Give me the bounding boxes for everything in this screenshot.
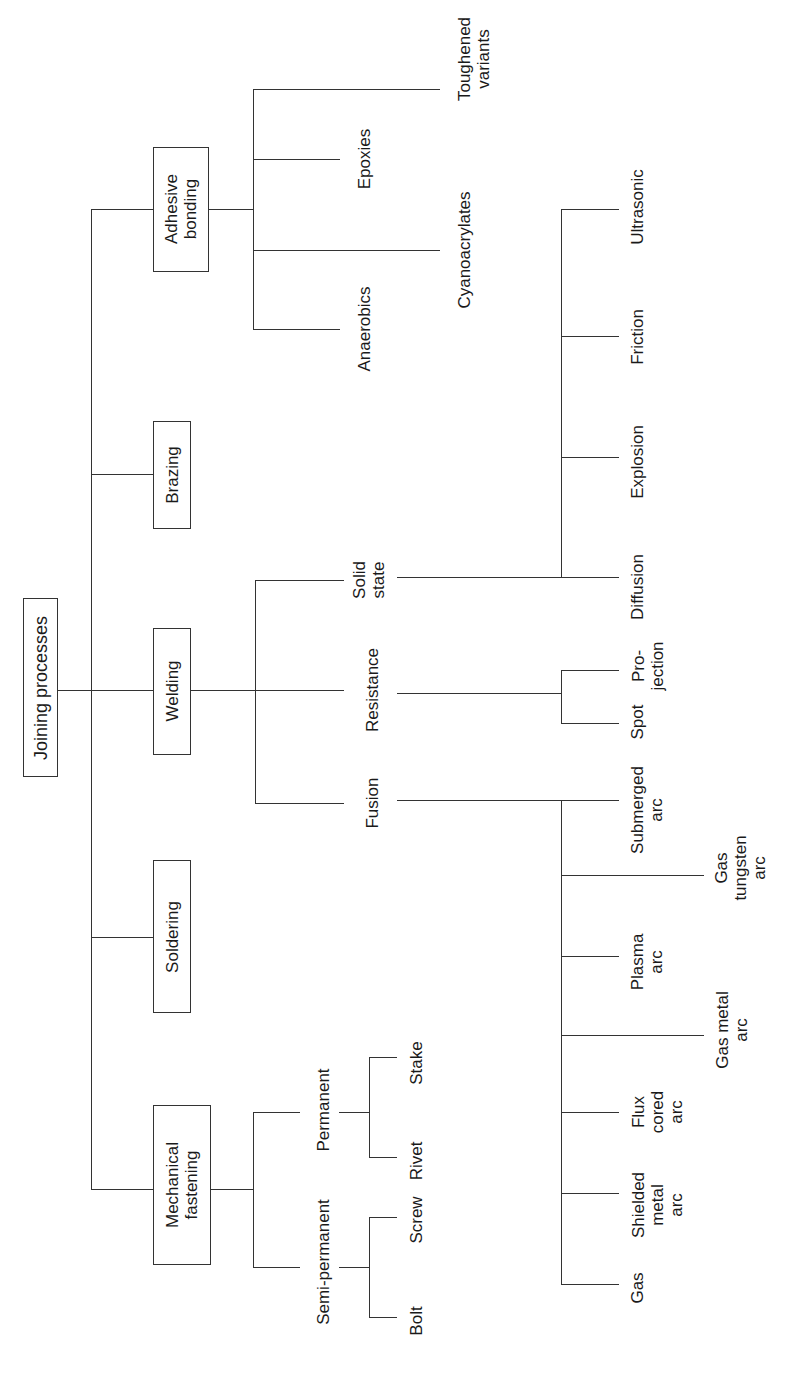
- screw-label: Screw: [407, 1196, 426, 1243]
- branch-projection: [561, 670, 619, 671]
- semi-permanent-bus: [369, 1217, 370, 1317]
- adhesive-bonding-label: Adhesive bonding: [162, 174, 200, 244]
- gas-metal-arc-label: Gas metal arc: [713, 991, 751, 1068]
- soldering-label: Soldering: [163, 901, 182, 973]
- branch-mechanical: [91, 1189, 153, 1190]
- submerged-arc-label: Submerged arc: [628, 766, 666, 854]
- anaerobics-label: Anaerobics: [355, 286, 374, 371]
- level1-bus: [91, 209, 92, 1189]
- branch-explosion: [561, 457, 619, 458]
- branch-spot: [561, 723, 619, 724]
- adhesive-connector: [209, 209, 253, 210]
- branch-gas-tungsten-arc: [561, 875, 704, 876]
- branch-rivet: [369, 1157, 397, 1158]
- resistance-connector: [397, 693, 561, 694]
- mechanical-bus: [253, 1112, 254, 1267]
- branch-welding: [91, 690, 153, 691]
- branch-semi-permanent: [253, 1267, 300, 1268]
- branch-solid-state: [255, 580, 344, 581]
- solid-state-label: Solid state: [350, 561, 388, 599]
- branch-bolt: [369, 1317, 397, 1318]
- shielded-metal-arc-label: Shielded metal arc: [629, 1172, 686, 1238]
- projection-label: Pro- jection: [629, 641, 667, 690]
- branch-ultrasonic: [561, 209, 619, 210]
- friction-label: Friction: [628, 309, 647, 365]
- branch-soldering: [91, 937, 153, 938]
- explosion-label: Explosion: [628, 425, 647, 499]
- branch-diffusion: [561, 577, 619, 578]
- ultrasonic-label: Ultrasonic: [628, 169, 647, 245]
- cyanoacrylates-label: Cyanoacrylates: [455, 191, 474, 308]
- plasma-arc-label: Plasma arc: [628, 934, 666, 991]
- welding-connector: [191, 690, 255, 691]
- permanent-label: Permanent: [314, 1068, 333, 1151]
- stake-label: Stake: [407, 1041, 426, 1084]
- welding-label: Welding: [163, 660, 182, 721]
- branch-gas: [561, 1284, 619, 1285]
- branch-screw: [369, 1217, 397, 1218]
- mechanical-fastening-label: Mechanical fastening: [163, 1142, 201, 1228]
- branch-plasma-arc: [561, 956, 619, 957]
- solid-state-connector: [397, 577, 561, 578]
- branch-cyanoacrylates: [253, 250, 440, 251]
- semi-permanent-label: Semi-permanent: [314, 1199, 333, 1325]
- resistance-bus: [561, 670, 562, 723]
- fusion-label: Fusion: [363, 777, 382, 828]
- welding-bus: [255, 580, 256, 803]
- diffusion-label: Diffusion: [628, 554, 647, 620]
- semi-permanent-connector: [339, 1267, 369, 1268]
- root-node-label: Joining processes: [32, 616, 51, 760]
- branch-epoxies: [253, 159, 340, 160]
- bolt-label: Bolt: [407, 1306, 426, 1335]
- branch-fusion: [255, 803, 344, 804]
- branch-flux-cored-arc: [561, 1112, 619, 1113]
- mechanical-connector: [211, 1189, 253, 1190]
- fusion-bus: [561, 800, 562, 1284]
- permanent-bus: [369, 1057, 370, 1157]
- brazing-label: Brazing: [163, 446, 182, 504]
- permanent-connector: [339, 1112, 369, 1113]
- branch-resistance: [255, 690, 344, 691]
- branch-toughened: [253, 89, 440, 90]
- spot-label: Spot: [628, 705, 647, 740]
- branch-submerged-arc: [561, 800, 619, 801]
- gas-label: Gas: [628, 1272, 647, 1303]
- toughened-variants-label: Toughened variants: [455, 17, 493, 101]
- rivet-label: Rivet: [407, 1142, 426, 1181]
- root-connector: [58, 690, 91, 691]
- resistance-label: Resistance: [363, 648, 382, 732]
- gas-tungsten-arc-label: Gas tungsten arc: [712, 835, 769, 900]
- branch-anaerobics: [253, 329, 340, 330]
- branch-adhesive: [91, 209, 153, 210]
- branch-stake: [369, 1057, 397, 1058]
- branch-brazing: [91, 474, 153, 475]
- branch-gas-metal-arc: [561, 1035, 704, 1036]
- branch-friction: [561, 336, 619, 337]
- fusion-connector: [397, 800, 561, 801]
- branch-permanent: [253, 1112, 300, 1113]
- solid-state-bus: [561, 209, 562, 577]
- branch-shielded-metal-arc: [561, 1193, 619, 1194]
- adhesive-bus: [253, 89, 254, 329]
- epoxies-label: Epoxies: [355, 129, 374, 189]
- flux-cored-arc-label: Flux cored arc: [629, 1091, 686, 1134]
